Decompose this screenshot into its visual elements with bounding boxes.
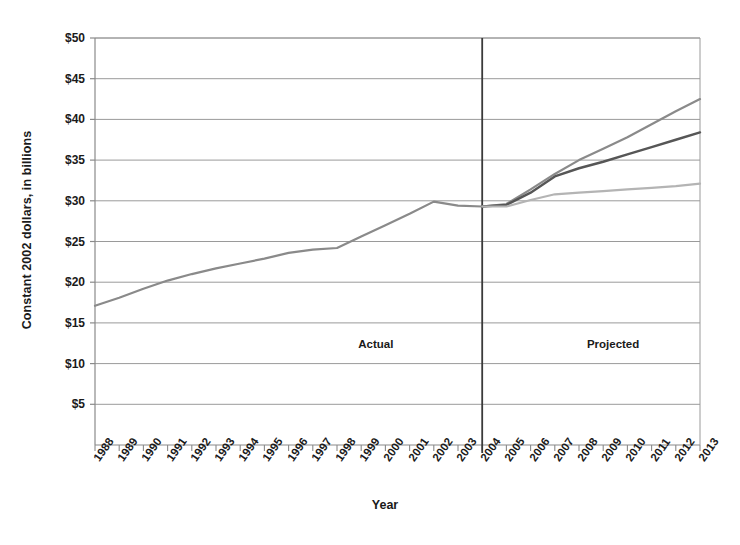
y-tick-label: $20 [37, 276, 85, 288]
y-tick-label: $35 [37, 154, 85, 166]
annotation-actual: Actual [358, 338, 393, 350]
series-line-actual [95, 202, 482, 306]
annotation-projected: Projected [587, 338, 639, 350]
y-tick-label: $40 [37, 113, 85, 125]
series-line-projected-middle [482, 132, 700, 206]
y-tick-label: $25 [37, 236, 85, 248]
x-axis-label: Year [0, 498, 740, 512]
y-tick-label: $15 [37, 317, 85, 329]
y-tick-label: $45 [37, 73, 85, 85]
y-tick-label: $30 [37, 195, 85, 207]
chart-figure: Constant 2002 dollars, in billions $5$10… [0, 0, 740, 545]
x-axis-label-text: Year [372, 498, 398, 512]
series-line-projected-low [482, 184, 700, 207]
y-tick-label: $10 [37, 358, 85, 370]
y-tick-label: $50 [37, 32, 85, 44]
series-line-projected-high [482, 99, 700, 206]
y-tick-label: $5 [37, 398, 85, 410]
plot-canvas [0, 0, 740, 545]
